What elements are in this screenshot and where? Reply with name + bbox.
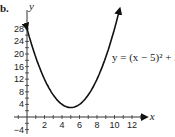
y-tick-label: 4 — [19, 99, 24, 109]
x-tick-label: 6 — [77, 120, 82, 130]
x-tick-label: 10 — [109, 120, 119, 130]
y-tick-label: 20 — [14, 49, 24, 59]
y-tick-label: 8 — [19, 87, 24, 97]
x-tick-label: 2 — [42, 120, 47, 130]
y-tick-label: 16 — [14, 62, 24, 72]
graph-figure: b. 24681012−4481216202428 y x y = (x − 5… — [0, 0, 175, 137]
y-tick-label: 24 — [14, 36, 24, 46]
y-tick-label: −4 — [14, 125, 24, 135]
problem-label: b. — [0, 2, 9, 14]
parabola-curve — [27, 9, 120, 108]
parabola-plot: 24681012−4481216202428 y x y = (x − 5)² … — [0, 0, 175, 137]
y-tick-label: 12 — [14, 74, 24, 84]
x-tick-label: 4 — [59, 120, 64, 130]
x-tick-label: 12 — [127, 120, 137, 130]
x-axis-label: x — [149, 110, 155, 122]
ticks: 24681012−4481216202428 — [14, 24, 141, 135]
equation-label: y = (x − 5)² + 3 — [112, 51, 175, 64]
axes — [14, 10, 147, 134]
y-tick-label: 28 — [14, 24, 24, 34]
y-axis-label: y — [28, 0, 34, 12]
x-tick-label: 8 — [94, 120, 99, 130]
